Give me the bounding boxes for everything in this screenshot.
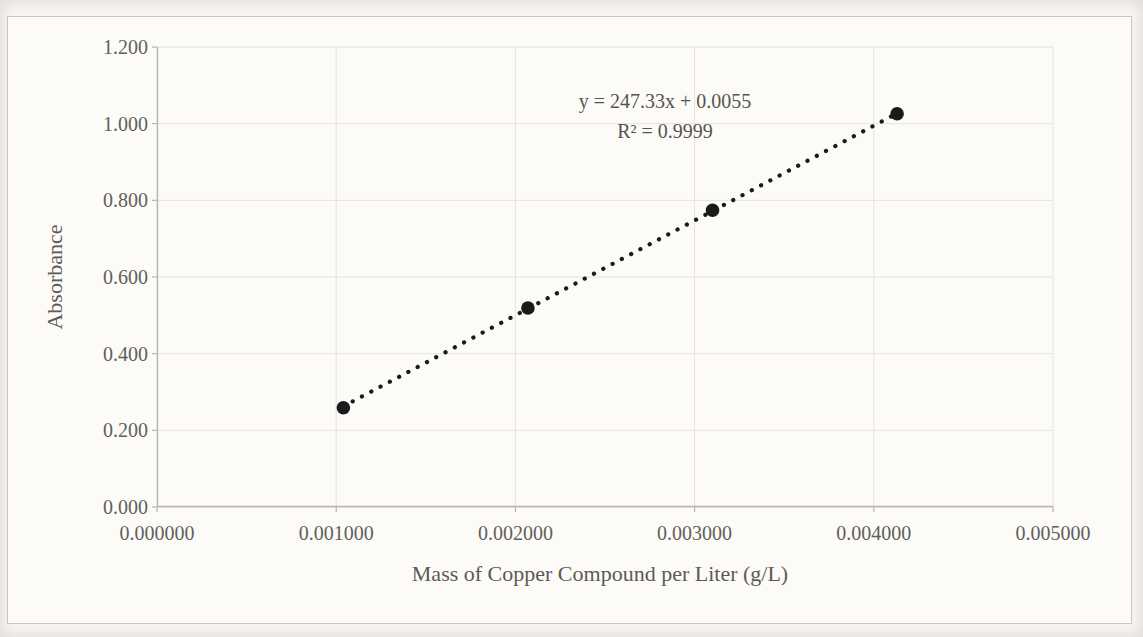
trendline-r-squared: R² = 0.9999	[579, 116, 752, 146]
data-point-marker	[706, 204, 720, 218]
y-tick-label: 0.400	[76, 342, 148, 366]
x-tick-label: 0.005000	[991, 521, 1115, 545]
data-point-marker	[890, 107, 904, 121]
data-point-marker	[337, 401, 351, 415]
x-tick-label: 0.003000	[633, 521, 757, 545]
y-tick-label: 1.200	[76, 35, 148, 59]
trendline-dotted	[343, 113, 897, 406]
data-point-marker	[521, 301, 535, 315]
chart-photo-page: 0.0000.2000.4000.6000.8001.0001.200 0.00…	[0, 0, 1143, 637]
y-axis-title: Absorbance	[42, 224, 68, 329]
y-tick-label: 0.200	[76, 418, 148, 442]
x-tick-label: 0.004000	[812, 521, 936, 545]
y-tick-label: 0.600	[76, 265, 148, 289]
trendline-equation: y = 247.33x + 0.0055	[579, 86, 752, 116]
x-tick-label: 0.000000	[95, 521, 219, 545]
y-tick-label: 0.800	[76, 188, 148, 212]
x-axis-title: Mass of Copper Compound per Liter (g/L)	[412, 561, 788, 587]
y-tick-label: 1.000	[76, 112, 148, 136]
y-tick-label: 0.000	[76, 495, 148, 519]
x-tick-label: 0.001000	[274, 521, 398, 545]
trendline-annotation: y = 247.33x + 0.0055 R² = 0.9999	[579, 86, 752, 146]
x-tick-label: 0.002000	[453, 521, 577, 545]
